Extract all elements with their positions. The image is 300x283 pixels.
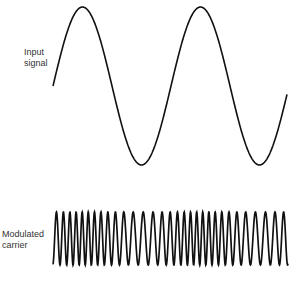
input-signal-wave bbox=[53, 7, 287, 165]
modulated-carrier-wave bbox=[53, 212, 288, 265]
waveform-diagram bbox=[0, 0, 300, 283]
